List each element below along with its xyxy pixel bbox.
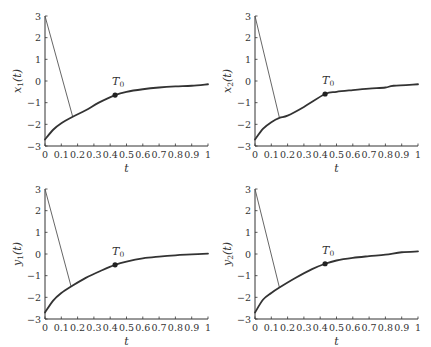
x-tick-label: 0.4 — [103, 322, 118, 333]
y-tick-label: −2 — [237, 292, 251, 303]
y-tick-label: 2 — [245, 32, 251, 43]
x-tick-label: 0.1 — [264, 322, 279, 333]
x-tick-label: 0.4 — [103, 149, 118, 160]
y-tick-label: −2 — [27, 119, 41, 130]
t0-marker — [322, 91, 327, 96]
x-tick-label: 0 — [252, 149, 258, 160]
y-tick-label: 1 — [35, 54, 41, 65]
transient-line — [45, 189, 71, 287]
x-tick-label: 1 — [415, 322, 421, 333]
x-tick-label: 0.2 — [280, 322, 295, 333]
x-tick-label: 0.4 — [313, 322, 328, 333]
y-tick-label: 1 — [245, 54, 251, 65]
y-tick-label: 2 — [245, 205, 251, 216]
transient-line — [45, 16, 73, 117]
x-tick-label: 0.7 — [152, 322, 167, 333]
x-tick-label: 0 — [252, 322, 258, 333]
x-axis-label: t — [334, 335, 339, 347]
y-tick-label: −2 — [237, 119, 251, 130]
y-tick-label: 3 — [35, 184, 41, 195]
t0-marker — [112, 92, 117, 97]
x-tick-label: 0.3 — [296, 322, 311, 333]
y-tick-label: −1 — [27, 97, 41, 108]
y-axis-label: x2(t) — [221, 69, 235, 93]
y-axis-label: y1(t) — [11, 242, 25, 267]
y-tick-label: 0 — [245, 76, 251, 87]
y-tick-label: −3 — [237, 314, 251, 325]
y-axis-label: x1(t) — [11, 69, 25, 93]
x-tick-label: 0.3 — [86, 149, 101, 160]
figure: 00.10.20.30.40.50.60.70.80.913210−1−2−3t… — [0, 0, 431, 347]
t0-marker — [322, 261, 327, 266]
trajectory-line — [45, 254, 208, 313]
x-tick-label: 0.1 — [264, 149, 279, 160]
x-tick-label: 1 — [205, 149, 211, 160]
t0-label: T0 — [112, 75, 124, 89]
x-tick-label: 0.3 — [296, 149, 311, 160]
subplot-y1: 00.10.20.30.40.50.60.70.80.913210−1−2−3t… — [11, 184, 211, 347]
y-tick-label: 0 — [35, 249, 41, 260]
y-tick-label: 3 — [245, 11, 251, 22]
x-tick-label: 0 — [42, 322, 48, 333]
x-tick-label: 0.2 — [70, 149, 85, 160]
x-tick-label: 0.5 — [119, 149, 134, 160]
x-tick-label: 0.6 — [345, 149, 360, 160]
x-tick-label: 0.7 — [152, 149, 167, 160]
x-tick-label: 1 — [415, 149, 421, 160]
x-tick-label: 0.5 — [119, 322, 134, 333]
y-tick-label: −1 — [237, 97, 251, 108]
y-tick-label: −1 — [27, 270, 41, 281]
x-tick-label: 0.5 — [329, 322, 344, 333]
trajectory-line — [45, 84, 208, 139]
y-axis-label: y2(t) — [221, 242, 235, 267]
x-tick-label: 0.9 — [184, 322, 199, 333]
subplot-y2: 00.10.20.30.40.50.60.70.80.913210−1−2−3t… — [221, 184, 421, 347]
y-tick-label: 0 — [35, 76, 41, 87]
trajectory-line — [255, 251, 418, 312]
x-tick-label: 0 — [42, 149, 48, 160]
x-tick-label: 0.6 — [345, 322, 360, 333]
t0-label: T0 — [322, 244, 334, 258]
x-tick-label: 0.6 — [135, 149, 150, 160]
x-tick-label: 0.1 — [54, 149, 69, 160]
x-tick-label: 0.8 — [168, 322, 183, 333]
y-tick-label: −3 — [27, 141, 41, 152]
x-tick-label: 0.3 — [86, 322, 101, 333]
y-tick-label: 1 — [245, 227, 251, 238]
y-tick-label: 0 — [245, 249, 251, 260]
x-tick-label: 0.1 — [54, 322, 69, 333]
x-axis-label: t — [124, 335, 129, 347]
t0-label: T0 — [322, 74, 334, 88]
x-tick-label: 0.9 — [394, 322, 409, 333]
y-tick-label: −2 — [27, 292, 41, 303]
x-tick-label: 0.7 — [362, 149, 377, 160]
x-tick-label: 0.6 — [135, 322, 150, 333]
trajectory-line — [255, 84, 418, 139]
x-tick-label: 0.7 — [362, 322, 377, 333]
y-tick-label: 2 — [35, 32, 41, 43]
x-tick-label: 0.9 — [394, 149, 409, 160]
t0-label: T0 — [112, 245, 124, 259]
y-tick-label: 3 — [245, 184, 251, 195]
x-axis-label: t — [334, 162, 339, 175]
y-tick-label: 3 — [35, 11, 41, 22]
transient-line — [255, 16, 279, 118]
y-tick-label: −3 — [237, 141, 251, 152]
subplot-x1: 00.10.20.30.40.50.60.70.80.913210−1−2−3t… — [11, 11, 211, 176]
x-tick-label: 0.4 — [313, 149, 328, 160]
x-tick-label: 0.2 — [280, 149, 295, 160]
y-tick-label: 1 — [35, 227, 41, 238]
t0-marker — [112, 262, 117, 267]
y-tick-label: 2 — [35, 205, 41, 216]
transient-line — [255, 189, 279, 288]
x-tick-label: 0.5 — [329, 149, 344, 160]
x-tick-label: 0.8 — [378, 322, 393, 333]
subplot-x2: 00.10.20.30.40.50.60.70.80.913210−1−2−3t… — [221, 11, 421, 176]
y-tick-label: −3 — [27, 314, 41, 325]
y-tick-label: −1 — [237, 270, 251, 281]
x-tick-label: 0.9 — [184, 149, 199, 160]
x-tick-label: 0.8 — [168, 149, 183, 160]
x-axis-label: t — [124, 162, 129, 175]
x-tick-label: 0.8 — [378, 149, 393, 160]
x-tick-label: 0.2 — [70, 322, 85, 333]
